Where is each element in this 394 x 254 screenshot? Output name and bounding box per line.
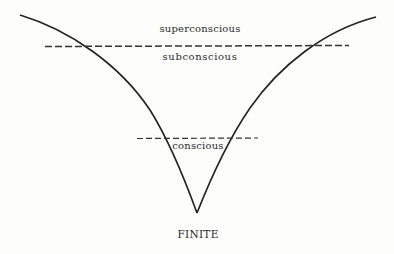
subconscious-label: subconscious: [163, 52, 238, 62]
conscious-label: conscious: [172, 141, 223, 151]
diagram-canvas: superconscious subconscious conscious FI…: [0, 0, 394, 254]
superconscious-label: superconscious: [159, 24, 240, 34]
left-boundary-curve: [20, 15, 197, 213]
conscious-divider: [137, 138, 258, 139]
finite-label: FINITE: [177, 229, 218, 240]
cone-diagram: [0, 0, 394, 254]
superconscious-subconscious-divider: [45, 46, 349, 47]
